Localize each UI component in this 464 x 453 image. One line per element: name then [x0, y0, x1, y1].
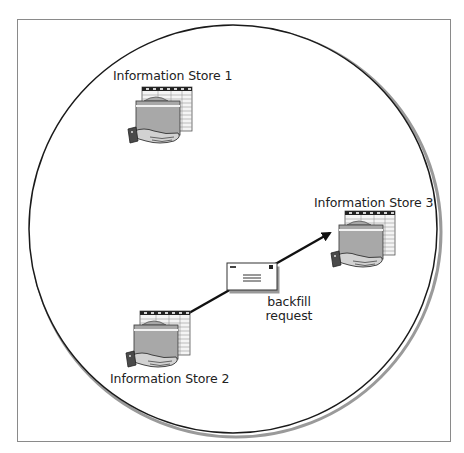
- envelope-icon: [227, 263, 280, 294]
- message-label-line1: backfill: [265, 295, 313, 309]
- backfill-request-label: backfill request: [265, 295, 313, 323]
- diagram-canvas: Information Store 1 Information Store 2 …: [0, 0, 464, 453]
- message-label-line2: request: [265, 309, 313, 323]
- store-3-label: Information Store 3: [314, 196, 433, 210]
- store-2-label: Information Store 2: [110, 372, 229, 386]
- store-1-label: Information Store 1: [113, 69, 232, 83]
